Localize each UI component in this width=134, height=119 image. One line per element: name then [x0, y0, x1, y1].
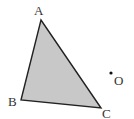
- label-c: C: [102, 106, 111, 119]
- label-a: A: [34, 3, 44, 18]
- label-o: O: [114, 73, 123, 88]
- label-b: B: [8, 94, 17, 109]
- point-o: [109, 71, 112, 74]
- triangle-abc: [21, 20, 101, 108]
- geometry-diagram: A B C O: [0, 0, 134, 119]
